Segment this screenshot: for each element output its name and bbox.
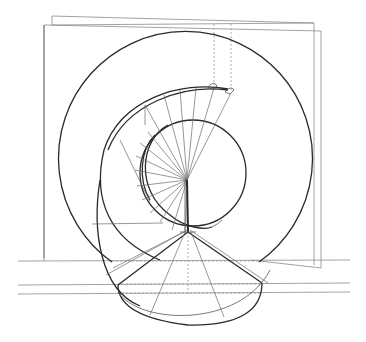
ground-lines [18, 260, 350, 294]
front-wall-top-edge [44, 25, 321, 31]
back-wall-plane [52, 16, 314, 265]
wall-planes [44, 16, 321, 268]
radial-treads [92, 88, 231, 233]
spiral-staircase-diagram [0, 0, 366, 342]
central-post [187, 180, 188, 232]
drawing-canvas [0, 0, 366, 342]
projection-lines [188, 24, 231, 296]
cone-sides [118, 232, 262, 285]
spiral-curves [97, 87, 228, 306]
cone-base-arc [118, 283, 262, 325]
